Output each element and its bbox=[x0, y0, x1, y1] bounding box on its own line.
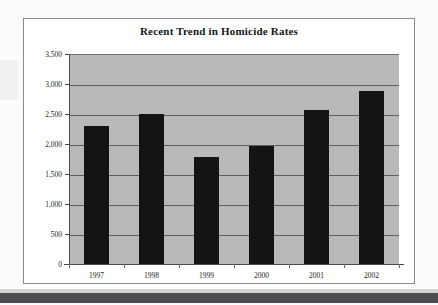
x-axis-tick-mark bbox=[69, 264, 70, 268]
x-axis-tick-mark bbox=[399, 264, 400, 268]
gridline bbox=[69, 235, 399, 236]
gridline bbox=[69, 85, 399, 86]
bar-2001 bbox=[304, 110, 329, 264]
bar-1998 bbox=[139, 114, 164, 264]
bar-1997 bbox=[84, 126, 109, 264]
x-axis-tick-label: 2002 bbox=[364, 271, 379, 280]
y-axis-tick-label: 2,000 bbox=[26, 140, 62, 149]
bar-2000 bbox=[249, 146, 274, 265]
x-axis-tick-label: 2001 bbox=[309, 271, 324, 280]
scanned-page: Recent Trend in Homicide Rates 05001,000… bbox=[0, 0, 438, 305]
y-axis-tick-mark bbox=[65, 84, 69, 85]
gridline bbox=[69, 205, 399, 206]
gridline bbox=[69, 115, 399, 116]
y-axis-tick-label: 1,000 bbox=[26, 200, 62, 209]
x-axis-tick-label: 1999 bbox=[199, 271, 214, 280]
x-axis-tick-mark bbox=[344, 264, 345, 268]
y-axis-tick-mark bbox=[65, 204, 69, 205]
x-axis-tick-mark bbox=[179, 264, 180, 268]
gridline bbox=[69, 175, 399, 176]
chart-container: Recent Trend in Homicide Rates 05001,000… bbox=[23, 18, 415, 284]
y-axis-tick-label: 1,500 bbox=[26, 170, 62, 179]
y-axis-tick-mark bbox=[65, 174, 69, 175]
bar-1999 bbox=[194, 157, 219, 264]
gridline bbox=[69, 145, 399, 146]
scan-artifact-smudge bbox=[0, 60, 18, 100]
y-axis-tick-label: 3,000 bbox=[26, 80, 62, 89]
chart-title: Recent Trend in Homicide Rates bbox=[24, 25, 414, 37]
y-axis-tick-label: 2,500 bbox=[26, 110, 62, 119]
y-axis-tick-label: 500 bbox=[26, 230, 62, 239]
x-axis-tick-label: 1997 bbox=[89, 271, 104, 280]
x-axis-tick-mark bbox=[124, 264, 125, 268]
y-axis-tick-mark bbox=[65, 234, 69, 235]
y-axis-tick-mark bbox=[65, 54, 69, 55]
plot-area bbox=[69, 54, 399, 265]
y-axis-tick-mark bbox=[65, 114, 69, 115]
x-axis-tick-mark bbox=[289, 264, 290, 268]
scan-artifact-band-dark bbox=[0, 293, 438, 303]
x-axis-tick-label: 1998 bbox=[144, 271, 159, 280]
x-axis-tick-label: 2000 bbox=[254, 271, 269, 280]
y-axis-tick-mark bbox=[65, 144, 69, 145]
y-axis-tick-label: 3,500 bbox=[26, 50, 62, 59]
y-axis-tick-label: 0 bbox=[26, 260, 62, 269]
bar-2002 bbox=[359, 91, 384, 264]
y-axis-line bbox=[69, 54, 70, 265]
x-axis-tick-mark bbox=[234, 264, 235, 268]
